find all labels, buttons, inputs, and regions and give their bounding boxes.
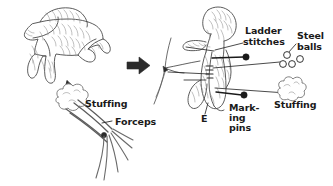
illustration-svg [0, 0, 333, 186]
left-animal-figure [24, 8, 110, 83]
marking-pin-upper [212, 54, 249, 60]
right-animal-figure [183, 7, 236, 111]
label-steel-balls-line1: Steel [297, 31, 324, 42]
left-stuffing-cloud [56, 84, 88, 111]
steel-balls-leader [288, 44, 296, 53]
suture-thread [165, 61, 200, 73]
label-forceps: Forceps [115, 117, 156, 128]
label-stuffing-left: Stuffing [85, 99, 127, 110]
steel-ball [289, 61, 296, 68]
steel-ball [284, 52, 291, 59]
label-needle-e: E [201, 114, 207, 125]
right-stuffing-cloud [278, 77, 306, 101]
label-ladder-stitches-line1: Ladder [245, 26, 282, 37]
label-marking-pins-line3: pins [229, 123, 251, 134]
ladder-stitches-leader [215, 43, 243, 50]
suture-needle [154, 38, 171, 104]
steel-ball [297, 56, 304, 63]
process-arrow-icon [127, 57, 150, 74]
left-animal-fur-hatching [26, 10, 103, 78]
marking-pin-lower [216, 92, 247, 98]
label-stuffing-right: Stuffing [274, 100, 316, 111]
figure-canvas: Stuffing Forceps Ladder stitches Steel b… [0, 0, 333, 186]
label-steel-balls-line2: balls [297, 42, 322, 53]
steel-ball [280, 61, 287, 68]
label-ladder-stitches-line2: stitches [243, 37, 285, 48]
steel-balls-group [280, 52, 304, 68]
